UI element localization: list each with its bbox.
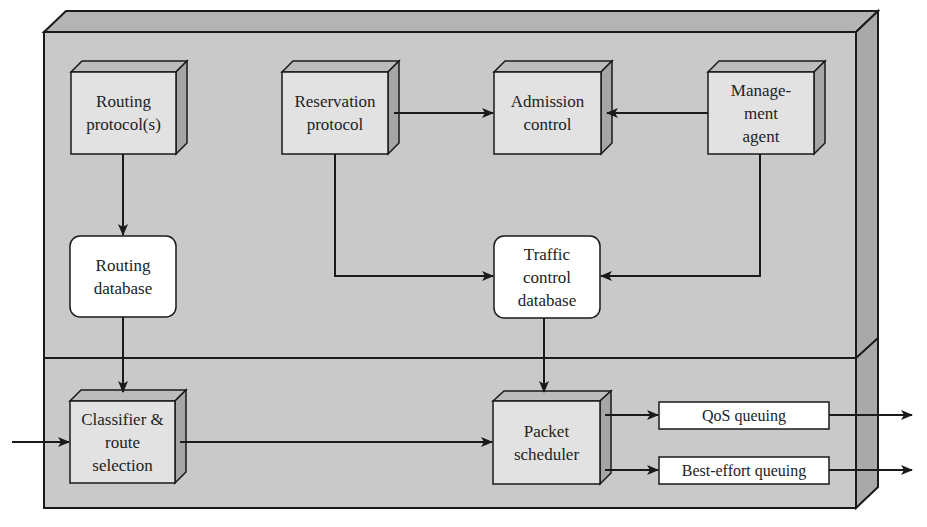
routing-protocols-label: Routing protocol(s) bbox=[71, 72, 176, 154]
best-effort-queuing-label: Best-effort queuing bbox=[659, 457, 829, 484]
qos-queuing-label: QoS queuing bbox=[659, 402, 829, 429]
management-agent-label: Manage- ment agent bbox=[708, 72, 814, 154]
packet-scheduler-label: Packet scheduler bbox=[493, 401, 600, 484]
admission-control-label: Admission control bbox=[494, 72, 601, 154]
routing-database-label: Routing database bbox=[70, 236, 176, 317]
reservation-protocol-label: Reservation protocol bbox=[282, 72, 388, 154]
panel-top-face bbox=[44, 11, 878, 32]
classifier-label: Classifier & route selection bbox=[70, 401, 175, 483]
panel-side-face bbox=[856, 11, 878, 508]
traffic-control-database-label: Traffic control database bbox=[494, 236, 600, 318]
